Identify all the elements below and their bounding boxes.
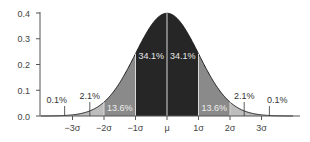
tail-percent-label: 0.1%: [267, 95, 288, 105]
y-tick-label: 0.4: [17, 9, 30, 19]
tail-percent-label: 2.1%: [80, 91, 101, 101]
normal-distribution-chart: 0.00.10.20.30.4 −3σ−2σ−1σμ1σ2σ3σ 0.1%2.1…: [0, 0, 310, 142]
region-percent-label: 34.1%: [138, 51, 164, 61]
x-tick-label: 2σ: [225, 123, 236, 133]
x-axis-ticks: −3σ−2σ−1σμ1σ2σ3σ: [65, 116, 268, 133]
y-tick-label: 0.3: [17, 34, 30, 44]
tail-percent-label: 2.1%: [234, 91, 255, 101]
y-tick-label: 0.2: [17, 60, 30, 70]
x-tick-label: 1σ: [193, 123, 204, 133]
y-tick-label: 0.0: [17, 112, 30, 122]
y-axis-ticks: 0.00.10.20.30.4: [17, 9, 40, 122]
x-tick-label: −3σ: [65, 123, 81, 133]
y-tick-label: 0.1: [17, 86, 30, 96]
x-tick-label: 3σ: [256, 123, 267, 133]
region-percent-label: 34.1%: [170, 51, 196, 61]
region-percent-label: 13.6%: [201, 103, 227, 113]
tail-percent-label: 0.1%: [46, 95, 67, 105]
region-4: [167, 13, 199, 116]
region-percent-label: 13.6%: [107, 103, 133, 113]
x-tick-label: μ: [164, 123, 169, 133]
x-tick-label: −2σ: [96, 123, 112, 133]
region-3: [136, 13, 168, 116]
x-tick-label: −1σ: [128, 123, 144, 133]
